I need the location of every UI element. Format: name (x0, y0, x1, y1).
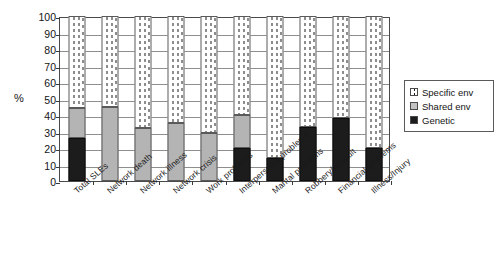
x-axis-tick-labels: Total SLEsNetwork deathNetwork illnessNe… (0, 0, 500, 279)
genetic-swatch (410, 116, 418, 124)
chart-legend: Specific envShared envGenetic (404, 80, 494, 132)
x-tick-label: Financial problems (336, 140, 398, 196)
stacked-bar-chart: % 0102030405060708090100 Total SLEsNetwo… (0, 0, 500, 279)
x-tick-label: Total SLEs (72, 161, 110, 196)
specific-env-swatch (410, 88, 418, 96)
legend-item-label: Specific env (422, 87, 473, 98)
legend-item-label: Genetic (422, 115, 455, 126)
shared-env-swatch (410, 102, 418, 110)
legend-item[interactable]: Shared env (410, 99, 489, 113)
legend-item[interactable]: Specific env (410, 85, 489, 99)
legend-item-label: Shared env (422, 101, 471, 112)
legend-item[interactable]: Genetic (410, 113, 489, 127)
